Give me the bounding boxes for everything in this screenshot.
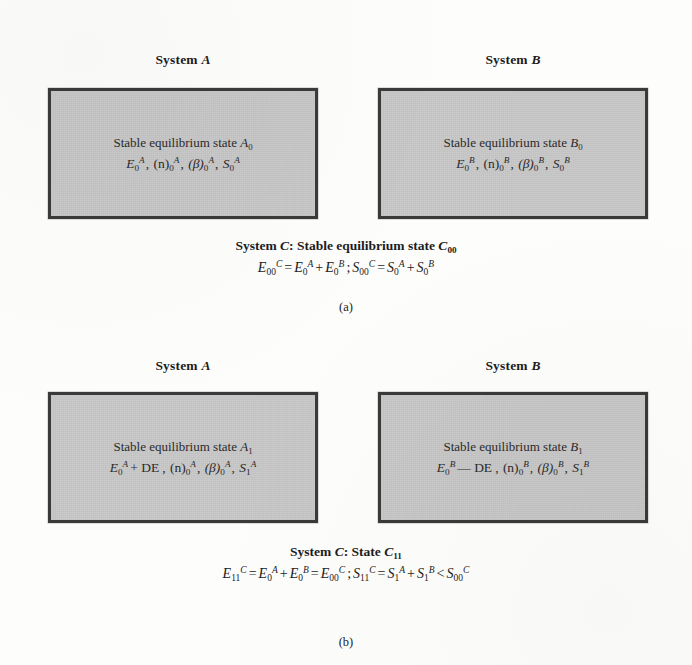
panel-a-caption-equation: E00C=E0A+E0B;S00C=S0A+S0B <box>0 260 692 276</box>
system-b-box: Stable equilibrium state B0 E0B, (n)0B, … <box>378 88 648 219</box>
comma-separator: , <box>231 460 236 475</box>
semicolon-sign: ; <box>345 566 353 581</box>
plus-sign: + <box>313 260 325 275</box>
comma-separator: , <box>214 156 219 171</box>
equals-sign: = <box>309 566 321 581</box>
system-a-title-prefix: System <box>155 52 197 67</box>
system-b-title-prefix-b: System <box>485 358 527 373</box>
delta-energy-term-b: — DE <box>455 460 494 475</box>
caption-prefix: System <box>235 238 276 253</box>
system-a-title-symbol: A <box>201 52 210 67</box>
plus-sign: + <box>278 566 290 581</box>
prop-sup: A <box>251 459 257 469</box>
comma-separator: , <box>161 460 166 475</box>
system-b-title: System B <box>378 52 648 68</box>
prop-base: (n) <box>153 156 169 171</box>
caption-state-subscript: 00 <box>447 245 456 255</box>
panel-a-caption-title: System C: Stable equilibrium state C00 <box>0 238 692 254</box>
panel-b-label: (b) <box>0 635 692 650</box>
system-a-title-b: System A <box>48 358 318 374</box>
system-a-properties-b: E0A+ DE, (n)0A, (β)0A, S1A <box>110 460 257 476</box>
prop-base: S <box>223 156 230 171</box>
equals-sign: = <box>247 566 259 581</box>
equals-sign: = <box>375 260 387 275</box>
caption-prefix: System <box>290 544 331 559</box>
system-b-properties: E0B, (n)0B, (β)0B, S0B <box>456 156 570 172</box>
prop-base: (n) <box>483 156 499 171</box>
system-b-box-b: Stable equilibrium state B1 E0B— DE, (n)… <box>378 392 648 523</box>
comma-separator: , <box>509 156 514 171</box>
system-a-box: Stable equilibrium state A0 E0A, (n)0A, … <box>48 88 318 219</box>
system-a-title-symbol-b: A <box>201 358 210 373</box>
prop-base: (β) <box>518 156 534 171</box>
prop-base: (β) <box>538 460 554 475</box>
panel-b-caption-title: System C: State C11 <box>0 544 692 560</box>
prop-sup: B <box>469 155 475 165</box>
system-b-properties-b: E0B— DE, (n)0B, (β)0B, S1B <box>437 460 589 476</box>
system-b-state-subscript-b: 1 <box>578 446 582 456</box>
system-a-box-b: Stable equilibrium state A1 E0A+ DE, (n)… <box>48 392 318 523</box>
system-b-state-line-b: Stable equilibrium state B1 <box>443 439 582 455</box>
caption-state-text: Stable equilibrium state <box>297 238 435 253</box>
panel-a-caption: System C: Stable equilibrium state C00 E… <box>0 238 692 276</box>
comma-separator: , <box>179 156 184 171</box>
prop-sup: B <box>564 155 570 165</box>
comma-separator: , <box>196 460 201 475</box>
system-a-state-subscript-b: 1 <box>248 446 252 456</box>
caption-state-subscript: 11 <box>393 551 402 561</box>
system-a-state-text: Stable equilibrium state <box>113 135 236 150</box>
system-a-state-line-b: Stable equilibrium state A1 <box>113 439 252 455</box>
system-b-state-text-b: Stable equilibrium state <box>443 439 566 454</box>
system-a-state-subscript: 0 <box>248 142 252 152</box>
system-a-title: System A <box>48 52 318 68</box>
caption-state-text: State <box>352 544 381 559</box>
system-a-state-line: Stable equilibrium state A0 <box>113 135 252 151</box>
comma-separator: , <box>529 460 534 475</box>
less-than-sign: < <box>435 566 447 581</box>
prop-base: (β) <box>205 460 221 475</box>
prop-sup: B <box>523 459 529 469</box>
system-b-title-prefix: System <box>485 52 527 67</box>
panel-b-caption: System C: State C11 E11C=E0A+E0B=E00C;S1… <box>0 544 692 582</box>
system-a-properties: E0A, (n)0A, (β)0A, S0A <box>126 156 240 172</box>
system-b-state-symbol-b: B <box>570 439 578 454</box>
caption-symbol: C <box>280 238 289 253</box>
system-a-state-text-b: Stable equilibrium state <box>113 439 236 454</box>
equals-sign: = <box>282 260 294 275</box>
figure-page: System A System B Stable equilibrium sta… <box>0 0 692 665</box>
caption-state-symbol: C <box>384 544 393 559</box>
plus-sign: + <box>405 566 417 581</box>
system-b-state-text: Stable equilibrium state <box>443 135 566 150</box>
comma-separator: , <box>475 156 480 171</box>
system-b-title-b: System B <box>378 358 648 374</box>
prop-base: (n) <box>503 460 519 475</box>
system-b-state-line: Stable equilibrium state B0 <box>443 135 582 151</box>
comma-separator: , <box>564 460 569 475</box>
prop-base: E <box>437 460 445 475</box>
comma-separator: , <box>145 156 150 171</box>
caption-colon: : <box>344 544 349 559</box>
system-a-state-symbol-b: A <box>240 439 248 454</box>
caption-colon: : <box>289 238 294 253</box>
system-b-state-subscript: 0 <box>578 142 582 152</box>
prop-base: S <box>572 460 579 475</box>
caption-symbol: C <box>335 544 344 559</box>
equals-sign: = <box>376 566 388 581</box>
prop-sup: A <box>225 459 231 469</box>
prop-sup: B <box>584 459 590 469</box>
delta-energy-term-a: + DE <box>128 460 161 475</box>
panel-a-label: (a) <box>0 300 692 315</box>
system-b-title-symbol-b: B <box>531 358 540 373</box>
system-b-title-symbol: B <box>531 52 540 67</box>
prop-sup: A <box>234 155 240 165</box>
panel-b-caption-equation: E11C=E0A+E0B=E00C;S11C=S1A+S1B<S00C <box>0 566 692 582</box>
prop-base: E <box>110 460 118 475</box>
prop-base: (β) <box>188 156 204 171</box>
system-b-state-symbol: B <box>570 135 578 150</box>
comma-separator: , <box>494 460 499 475</box>
prop-sup: B <box>558 459 564 469</box>
plus-sign: + <box>405 260 417 275</box>
system-a-state-symbol: A <box>240 135 248 150</box>
prop-base: S <box>553 156 560 171</box>
system-a-title-prefix-b: System <box>155 358 197 373</box>
